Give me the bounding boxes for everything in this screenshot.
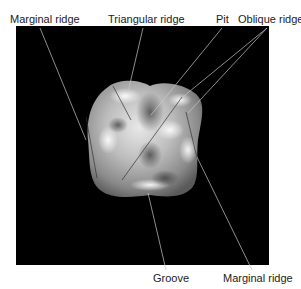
tooth-illustration — [0, 0, 301, 289]
leader-oblique-ridge-b — [188, 28, 267, 113]
label-marginal-ridge-left: Marginal ridge — [10, 13, 80, 26]
leader-marginal-ridge-right — [196, 155, 252, 270]
leader-oblique-ridge-a — [184, 28, 267, 96]
label-pit: Pit — [216, 13, 229, 26]
label-triangular-ridge: Triangular ridge — [108, 13, 185, 26]
label-marginal-ridge-right: Marginal ridge — [223, 272, 293, 285]
label-oblique-ridge: Oblique ridge — [238, 13, 301, 26]
label-groove: Groove — [153, 272, 189, 285]
leader-marginal-ridge-left — [40, 28, 86, 140]
leader-groove — [148, 193, 166, 270]
